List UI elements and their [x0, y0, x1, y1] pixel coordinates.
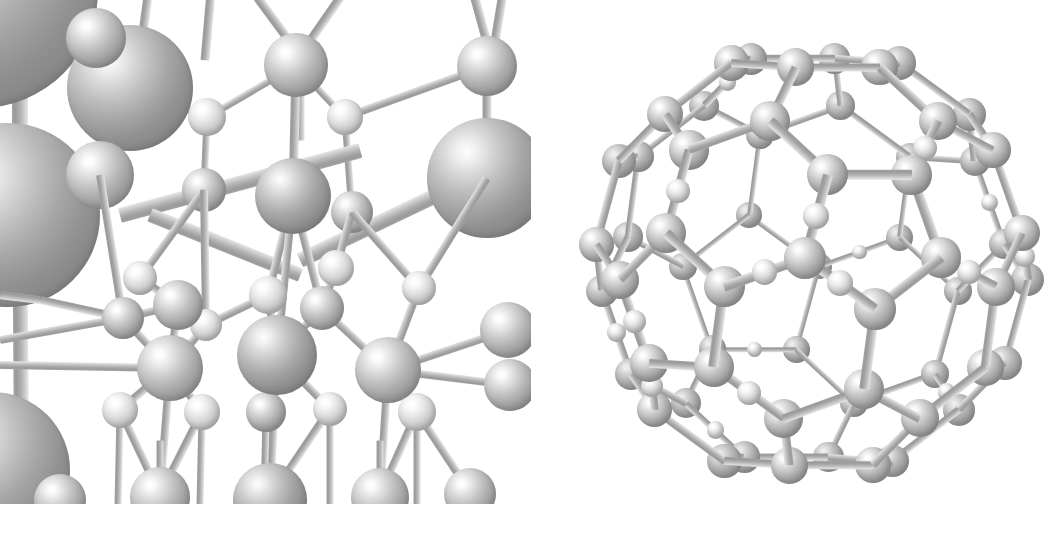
lattice-atom-node: [237, 315, 317, 395]
lattice-atom-small: [102, 392, 138, 428]
cage-cap-atom: [827, 270, 853, 296]
cage-cap-atom: [981, 194, 998, 211]
lattice-atom-medium: [264, 33, 328, 97]
lattice-atom-medium: [102, 297, 144, 339]
periodic-lattice-panel: [0, 0, 531, 504]
lattice-atom-bottom-clipped: [351, 468, 409, 504]
cage-vertex-atom: [784, 237, 826, 279]
lattice-atom-large: [255, 158, 331, 234]
cage-cap-atom: [803, 203, 829, 229]
lattice-atom-node: [355, 337, 421, 403]
figure-root: [0, 0, 1059, 533]
cage-vertex-atom: [901, 399, 939, 437]
cage-cap-atom: [666, 179, 690, 203]
lattice-stage: [0, 0, 531, 504]
cage-stage: [560, 0, 1059, 533]
cage-vertex-atom: [977, 268, 1015, 306]
lattice-atom-medium: [153, 280, 203, 330]
lattice-atom-small: [402, 271, 436, 305]
lattice-atom-medium: [457, 36, 517, 96]
lattice-atom-small: [318, 250, 354, 286]
lattice-atom-small: [188, 98, 226, 136]
lattice-atom-medium: [484, 359, 531, 411]
lattice-atom-medium: [480, 302, 531, 358]
lattice-atom-small: [249, 276, 287, 314]
cage-cap-atom: [737, 381, 761, 405]
lattice-atom-bottom-clipped: [130, 467, 190, 504]
lattice-atom-node: [137, 335, 203, 401]
lattice-atom-medium: [246, 392, 286, 432]
cage-cap-atom: [852, 245, 866, 259]
cage-cap-atom: [607, 323, 626, 342]
lattice-atom-bottom-clipped: [233, 463, 307, 504]
lattice-atom-small: [313, 392, 347, 426]
cage-cap-atom: [752, 259, 778, 285]
lattice-atom-small: [327, 99, 363, 135]
cage-cap-atom: [623, 310, 646, 333]
lattice-atom-bottom-clipped: [444, 468, 496, 504]
fullerene-cage-panel: [560, 0, 1059, 533]
cage-cap-atom: [707, 421, 725, 439]
lattice-atom-small: [184, 394, 220, 430]
lattice-atom-medium: [66, 8, 126, 68]
lattice-atom-medium: [300, 286, 344, 330]
lattice-atom-large: [427, 118, 531, 238]
lattice-atom-small: [123, 261, 157, 295]
lattice-bond-upper: [201, 0, 217, 60]
cage-cap-atom: [747, 342, 762, 357]
